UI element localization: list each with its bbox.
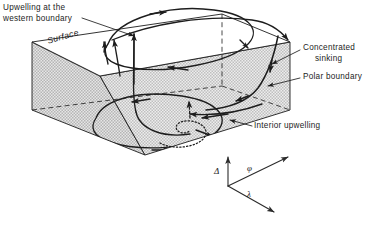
label-interior-upwelling: Interior upwelling — [254, 121, 320, 132]
axis-phi — [228, 157, 288, 186]
label-polar-boundary: Polar boundary — [303, 72, 362, 83]
label-upwelling-western-line1: Upwelling at the — [3, 3, 65, 12]
label-upwelling-western-boundary: Upwelling at thewestern boundary — [3, 3, 72, 24]
label-concentrated-sinking-line2: sinking — [303, 54, 355, 65]
label-upwelling-western-line2: western boundary — [3, 14, 72, 23]
axis-label-lambda: λ — [247, 189, 251, 199]
axis-lambda — [228, 186, 274, 212]
axis-label-delta: Δ — [214, 166, 219, 176]
coordinate-axes — [228, 157, 288, 212]
label-concentrated-sinking-line1: Concentrated — [303, 43, 355, 52]
axis-label-phi: φ — [247, 163, 252, 173]
label-concentrated-sinking: Concentratedsinking — [303, 43, 355, 64]
